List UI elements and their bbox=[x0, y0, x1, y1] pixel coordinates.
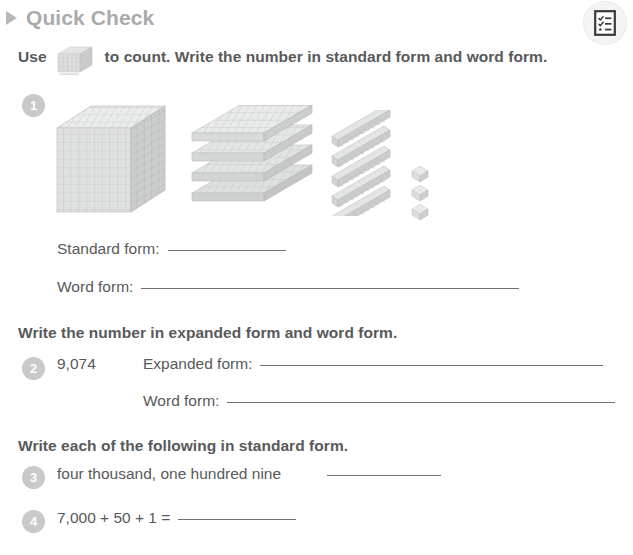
question-number-badge: 3 bbox=[22, 466, 45, 489]
q4-answer-line[interactable] bbox=[178, 519, 296, 520]
triangle-right-icon bbox=[6, 11, 17, 25]
q1-standard-form-answer-line[interactable] bbox=[168, 250, 286, 251]
hundreds-flats-block bbox=[190, 105, 314, 221]
q3-row: four thousand, one hundred nine bbox=[57, 465, 441, 483]
q2-word-form-field: Word form: bbox=[143, 392, 615, 410]
thousands-cube-block bbox=[55, 100, 167, 222]
checklist-document-icon bbox=[594, 10, 616, 36]
instruction-use-blocks: Use to count. Write the number in standa… bbox=[18, 42, 547, 72]
q1-standard-form-field: Standard form: bbox=[57, 240, 286, 258]
checklist-button[interactable] bbox=[583, 1, 627, 45]
q2-prompt-number: 9,074 bbox=[57, 355, 96, 373]
question-number-badge: 2 bbox=[22, 357, 45, 380]
q1-word-form-label: Word form: bbox=[57, 278, 133, 296]
q1-word-form-answer-line[interactable] bbox=[141, 288, 519, 289]
instruction-standard-form: Write each of the following in standard … bbox=[18, 437, 348, 455]
q3-answer-line[interactable] bbox=[327, 475, 441, 476]
page-title: Quick Check bbox=[26, 6, 154, 30]
q4-prompt-text: 7,000 + 50 + 1 = bbox=[57, 509, 170, 527]
instruction-expanded-and-word-form: Write the number in expanded form and wo… bbox=[18, 324, 397, 342]
q1-standard-form-label: Standard form: bbox=[57, 240, 160, 258]
question-number-badge: 4 bbox=[22, 510, 45, 533]
tens-rods-block bbox=[330, 110, 402, 220]
ones-units-block bbox=[410, 165, 432, 227]
q4-row: 7,000 + 50 + 1 = bbox=[57, 509, 296, 527]
instruction-text-before-icon: Use bbox=[18, 48, 47, 66]
q2-expanded-form-answer-line[interactable] bbox=[260, 365, 603, 366]
q2-expanded-form-label: Expanded form: bbox=[143, 355, 252, 373]
instruction-text-after-icon: to count. Write the number in standard f… bbox=[105, 48, 548, 66]
q1-word-form-field: Word form: bbox=[57, 278, 519, 296]
q2-expanded-form-field: Expanded form: bbox=[143, 355, 603, 373]
q2-word-form-answer-line[interactable] bbox=[227, 402, 615, 403]
q2-word-form-label: Word form: bbox=[143, 392, 219, 410]
base-ten-blocks-illustration bbox=[0, 85, 633, 225]
quick-check-header: Quick Check bbox=[6, 6, 154, 30]
q3-prompt-text: four thousand, one hundred nine bbox=[57, 465, 281, 483]
base-ten-thousand-cube-icon bbox=[54, 44, 98, 74]
